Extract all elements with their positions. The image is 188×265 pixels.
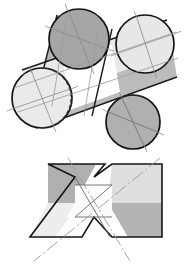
upper-right-arm <box>108 164 162 203</box>
pictorial-view <box>0 0 188 158</box>
orthographic-view <box>0 155 188 265</box>
ortho-band-bottom-right <box>118 217 162 237</box>
drawing-canvas <box>0 0 188 265</box>
